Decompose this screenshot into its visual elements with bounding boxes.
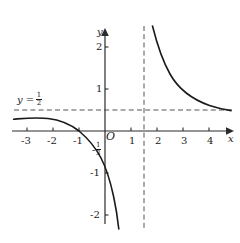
y-intercept-denominator: 3 — [95, 150, 100, 157]
y-tick-label-neg2: -2 — [90, 210, 100, 220]
asymptote-fraction: 12 — [36, 92, 41, 108]
x-tick-label-neg3: -3 — [21, 136, 31, 146]
x-tick-label-2: 2 — [155, 136, 161, 146]
y-tick-label-2: 2 — [96, 42, 102, 52]
graph-canvas — [0, 0, 240, 243]
horizontal-asymptote-label: y =12 — [17, 92, 42, 108]
x-tick-label-1: 1 — [129, 136, 135, 146]
x-tick-label-3: 3 — [181, 136, 187, 146]
x-tick-label-4: 4 — [207, 136, 213, 146]
origin-label: O — [106, 131, 115, 142]
y-intercept-fraction: 13 — [95, 142, 100, 158]
y-tick-label-1: 1 — [96, 84, 102, 94]
x-tick-label-neg1: -1 — [73, 136, 83, 146]
rational-function-graph: y x O -3 -2 -1 1 2 3 4 2 1 -1 -2 -13 y =… — [0, 0, 240, 243]
asymptote-eq-prefix: y = — [17, 95, 34, 105]
y-intercept-label: -13 — [92, 142, 101, 158]
x-tick-label-neg2: -2 — [47, 136, 57, 146]
y-axis-label: y — [97, 27, 103, 37]
x-axis-label: x — [228, 134, 234, 144]
curve-right-branch — [153, 26, 232, 111]
asymptote-denominator: 2 — [36, 100, 41, 107]
y-tick-label-neg1: -1 — [90, 168, 100, 178]
